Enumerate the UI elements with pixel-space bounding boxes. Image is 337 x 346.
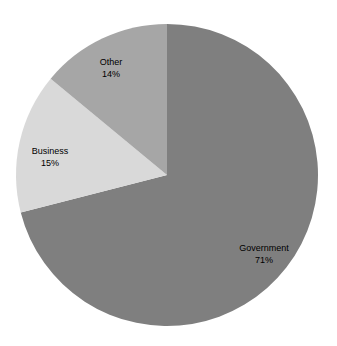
label-government-name: Government xyxy=(239,243,289,253)
label-business-pct: 15% xyxy=(41,158,59,168)
label-other-pct: 14% xyxy=(102,69,120,79)
label-government-pct: 71% xyxy=(255,255,273,265)
label-other-name: Other xyxy=(100,57,123,67)
pie-chart: Government 71% Business 15% Other 14% xyxy=(0,0,337,346)
label-business-name: Business xyxy=(32,146,69,156)
